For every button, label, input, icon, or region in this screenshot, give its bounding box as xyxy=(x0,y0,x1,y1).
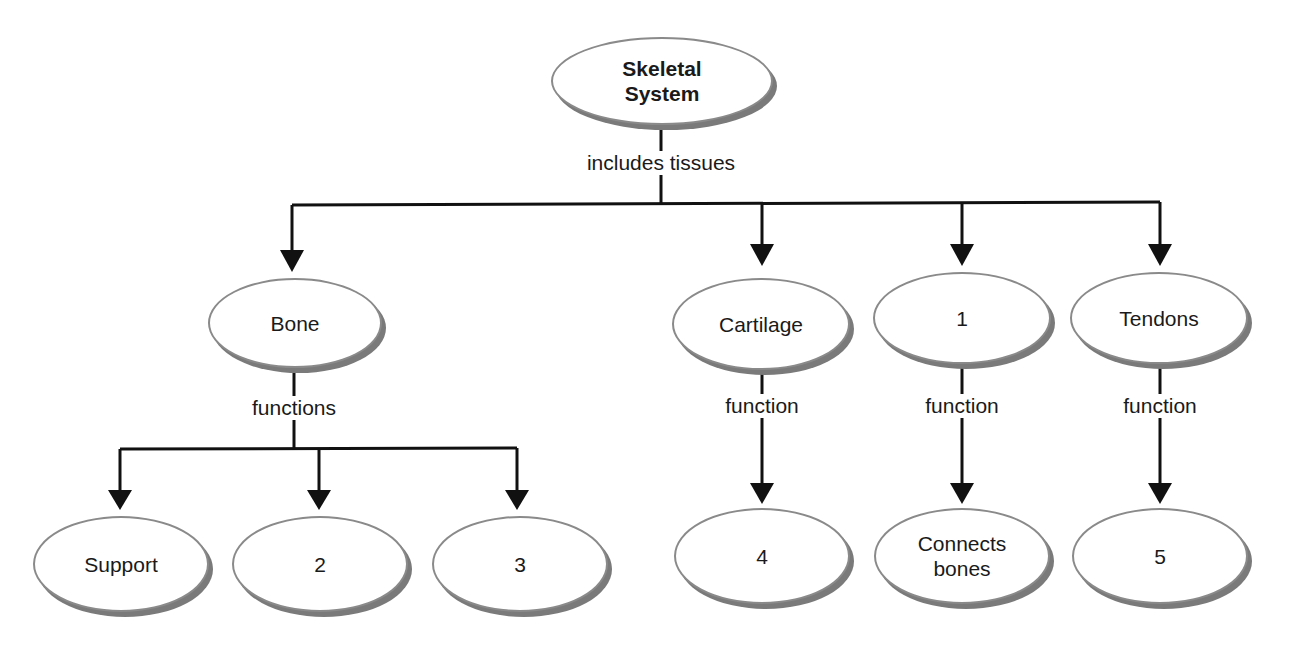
node-label: 2 xyxy=(314,552,326,577)
node-blank-3: 3 xyxy=(432,516,608,612)
node-label: Skeletal System xyxy=(602,56,722,106)
node-bone: Bone xyxy=(208,278,382,368)
node-blank-2: 2 xyxy=(232,516,408,612)
node-blank-5: 5 xyxy=(1072,508,1248,604)
node-blank-4: 4 xyxy=(674,508,850,604)
node-label: 1 xyxy=(956,306,968,331)
node-cartilage: Cartilage xyxy=(672,278,850,370)
link-label-tendons-function: function xyxy=(1120,394,1200,418)
link-label-includes-tissues: includes tissues xyxy=(584,151,738,175)
node-label: Support xyxy=(84,552,158,577)
link-label-cartilage-function: function xyxy=(722,394,802,418)
node-label: 5 xyxy=(1154,544,1166,569)
node-blank-1: 1 xyxy=(873,272,1051,364)
node-label: Cartilage xyxy=(719,312,803,337)
node-tendons: Tendons xyxy=(1070,272,1248,364)
node-connects-bones: Connects bones xyxy=(874,508,1050,604)
node-label: Tendons xyxy=(1119,306,1198,331)
node-label: 4 xyxy=(756,544,768,569)
node-label: Connects bones xyxy=(907,531,1017,581)
node-label: 3 xyxy=(514,552,526,577)
node-label: Bone xyxy=(270,311,319,336)
link-label-blank1-function: function xyxy=(922,394,1002,418)
node-skeletal-system: Skeletal System xyxy=(551,37,773,125)
link-label-bone-functions: functions xyxy=(249,396,339,420)
node-support: Support xyxy=(33,516,209,612)
